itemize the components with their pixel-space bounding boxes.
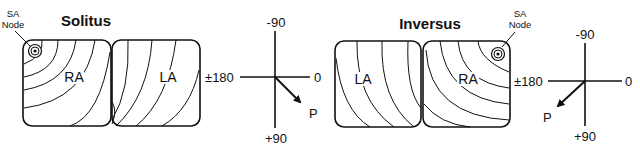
solitus-panel: Solitus SA Node RA: [2, 8, 322, 146]
atrial-activation-diagram: Solitus SA Node RA: [0, 0, 640, 161]
axis-left-label: ±180: [514, 74, 543, 89]
ra-label: RA: [458, 71, 478, 87]
sa-node-label-line1: SA: [514, 8, 527, 19]
sa-node-label-line2: Node: [2, 19, 25, 30]
la-label: LA: [354, 71, 372, 87]
la-label: LA: [159, 69, 177, 85]
sa-node-label-line1: SA: [7, 8, 20, 19]
right-atrium-box: RA: [423, 41, 510, 127]
sa-node-leader-line: [15, 31, 31, 47]
solitus-title: Solitus: [61, 12, 111, 29]
right-atrium-box: RA: [23, 40, 111, 126]
axis-bottom-label: +90: [574, 129, 596, 144]
left-atrium-box: LA: [111, 40, 200, 126]
inversus-frontal-axis: ±180 -90 +90 0 P: [514, 27, 632, 144]
axis-left-label: ±180: [205, 70, 234, 85]
axis-right-label: 0: [625, 74, 632, 89]
inversus-title: Inversus: [399, 15, 461, 32]
sa-node-label-line2: Node: [509, 19, 532, 30]
ra-label: RA: [64, 69, 84, 85]
solitus-frontal-axis: ±180 -90 +90 0 P: [205, 15, 321, 146]
inversus-panel: Inversus SA Node LA: [335, 8, 632, 144]
p-wave-vector-arrow: [275, 77, 300, 102]
left-atrium-box: LA: [335, 41, 421, 127]
axis-bottom-label: +90: [265, 131, 287, 146]
p-wave-vector-arrow: [558, 81, 585, 106]
axis-top-label: -90: [576, 27, 595, 42]
vector-label: P: [309, 106, 318, 121]
axis-top-label: -90: [267, 15, 286, 30]
axis-right-label: 0: [314, 70, 321, 85]
vector-label: P: [543, 110, 552, 125]
